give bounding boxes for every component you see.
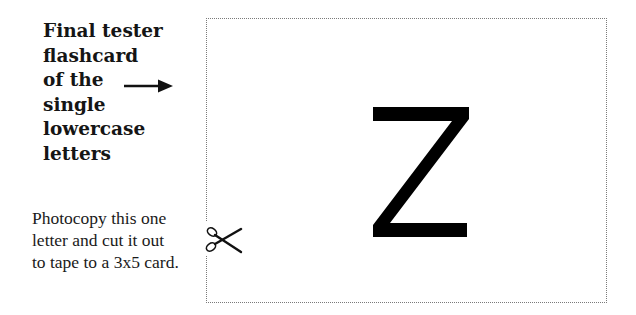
instruction-line: to tape to a 3x5 card. [32, 251, 179, 273]
instruction-line: letter and cut it out [32, 229, 179, 251]
scissors-icon [205, 225, 245, 255]
title-line: letters [43, 142, 173, 167]
instruction-line: Photocopy this one [32, 207, 179, 229]
title-line: single [43, 93, 173, 118]
title-line: lowercase [43, 117, 173, 142]
title-line: Final tester [43, 19, 173, 44]
cut-instructions: Photocopy this one letter and cut it out… [32, 207, 179, 273]
letter-z-glyph [373, 107, 469, 237]
title-line: flashcard [43, 44, 173, 69]
arrow-right-icon [124, 78, 174, 94]
flashcard-cut-outline [206, 18, 607, 303]
